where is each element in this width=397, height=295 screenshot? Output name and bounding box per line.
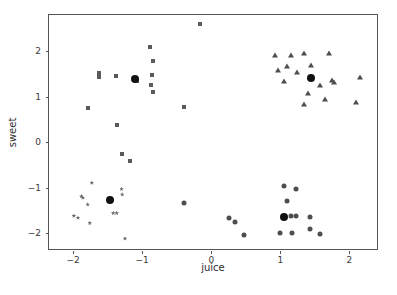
data-point-marker [308, 214, 313, 219]
y-tick-label: 2 [35, 46, 41, 56]
data-point-marker [290, 231, 295, 236]
data-point-marker [89, 180, 94, 185]
data-point-marker [97, 73, 101, 77]
y-tick-label: 1 [35, 92, 41, 102]
x-tick-mark [142, 251, 143, 254]
data-point-marker [275, 68, 281, 73]
data-point-marker [151, 59, 155, 63]
y-axis-label: sweet [6, 14, 20, 250]
data-point-marker [301, 50, 307, 55]
x-tick-label: 2 [347, 255, 353, 265]
data-point-marker [353, 100, 359, 105]
y-tick-label: 0 [35, 137, 41, 147]
data-point-marker [357, 74, 363, 79]
data-point-marker [294, 69, 300, 74]
x-tick-mark [349, 251, 350, 254]
data-point-marker [308, 62, 314, 67]
data-point-marker [122, 236, 127, 241]
data-point-marker [305, 91, 311, 96]
x-tick-mark [211, 251, 212, 254]
y-tick-mark [46, 188, 49, 189]
x-tick-label: −1 [136, 255, 149, 265]
data-point-marker [149, 83, 153, 87]
x-tick-label: −2 [67, 255, 80, 265]
y-tick-mark [46, 142, 49, 143]
y-tick-mark [46, 97, 49, 98]
x-tick-mark [280, 251, 281, 254]
scatter-plot-figure: sweet juice −2−1012−2−1012 [0, 0, 397, 295]
data-point-marker [317, 82, 323, 87]
cluster-centroid-marker [307, 74, 315, 82]
data-point-marker [151, 90, 155, 94]
x-tick-label: 0 [208, 255, 214, 265]
data-point-marker [326, 51, 332, 56]
cluster-centroid-marker [280, 213, 288, 221]
data-point-marker [331, 79, 337, 84]
cluster-centroid-marker [106, 196, 114, 204]
y-axis-label-text: sweet [8, 117, 19, 147]
y-tick-mark [46, 233, 49, 234]
data-point-marker [128, 159, 132, 163]
data-point-marker [120, 152, 124, 156]
y-tick-label: −1 [28, 183, 41, 193]
data-point-marker [322, 96, 328, 101]
data-point-marker [242, 232, 247, 237]
y-tick-label: −2 [28, 228, 41, 238]
data-point-marker [281, 79, 287, 84]
data-point-marker [272, 52, 278, 57]
data-point-marker [71, 213, 76, 218]
plot-area: −2−1012−2−1012 [49, 15, 377, 249]
cluster-centroid-marker [131, 75, 139, 83]
data-point-marker [114, 74, 118, 78]
data-point-marker [148, 45, 152, 49]
data-point-marker [293, 187, 298, 192]
data-point-marker [288, 53, 294, 58]
plot-frame: −2−1012−2−1012 [48, 14, 378, 250]
data-point-marker [198, 22, 202, 26]
data-point-marker [301, 101, 307, 106]
data-point-marker [150, 73, 154, 77]
data-point-marker [119, 187, 124, 192]
data-point-marker [87, 221, 92, 226]
data-point-marker [278, 230, 283, 235]
data-point-marker [281, 184, 286, 189]
data-point-marker [308, 227, 313, 232]
data-point-marker [284, 63, 290, 68]
data-point-marker [120, 192, 125, 197]
data-point-marker [182, 105, 186, 109]
data-point-marker [293, 213, 298, 218]
data-point-marker [85, 202, 90, 207]
data-point-marker [111, 211, 116, 216]
data-point-marker [226, 215, 231, 220]
data-point-marker [318, 232, 323, 237]
x-tick-label: 1 [277, 255, 283, 265]
data-point-marker [76, 215, 81, 220]
data-point-marker [115, 123, 119, 127]
y-tick-mark [46, 51, 49, 52]
data-point-marker [114, 211, 119, 216]
data-point-marker [181, 200, 186, 205]
data-point-marker [86, 106, 90, 110]
x-tick-mark [73, 251, 74, 254]
data-point-marker [232, 219, 237, 224]
data-point-marker [285, 198, 290, 203]
